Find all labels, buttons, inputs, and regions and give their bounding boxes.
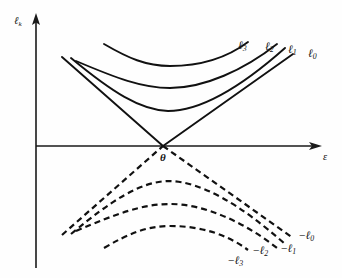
figure-container: ℓk ε θ ℓ3 ℓ2 ℓ1 ℓ0 −ℓ0 −ℓ1 −ℓ2 −ℓ3	[0, 0, 342, 278]
curve-l1	[71, 48, 285, 111]
label-minus-l3: −ℓ3	[228, 255, 243, 268]
label-l3-sub: 3	[243, 44, 247, 53]
label-minus-l0-sub: 0	[310, 234, 314, 243]
label-l0-sub: 0	[313, 52, 317, 61]
label-l3: ℓ3	[238, 40, 247, 53]
label-minus-l1: −ℓ1	[281, 243, 296, 256]
curve-l0-upper	[163, 54, 293, 146]
label-minus-l3-sub: 3	[239, 259, 243, 268]
curve-l3	[104, 42, 248, 66]
y-axis	[32, 13, 40, 268]
label-l2-sub: 2	[270, 45, 274, 54]
y-axis-label-sub: k	[18, 20, 21, 28]
label-minus-l2: −ℓ2	[253, 245, 268, 258]
x-axis	[36, 142, 322, 150]
label-minus-l0: −ℓ0	[299, 230, 314, 243]
label-l1-sub: 1	[293, 48, 297, 57]
curve-minus-l0-lower-left	[62, 146, 163, 235]
curve-minus-l1	[71, 181, 285, 244]
curve-l0-upper-left	[62, 57, 163, 146]
curve-minus-l3	[104, 226, 248, 250]
label-l2: ℓ2	[265, 41, 274, 54]
origin-label: θ	[160, 152, 166, 163]
label-minus-l1-sub: 1	[292, 247, 296, 256]
curve-minus-l0-lower	[163, 146, 293, 238]
label-minus-l2-sub: 2	[264, 249, 268, 258]
y-axis-label: ℓk	[14, 16, 22, 28]
lower-branches	[62, 146, 293, 250]
x-axis-label: ε	[323, 152, 327, 163]
curve-minus-l2	[76, 204, 277, 248]
upper-branches	[62, 42, 293, 146]
label-l0: ℓ0	[308, 48, 317, 61]
label-l1: ℓ1	[288, 44, 297, 57]
band-diagram-svg	[0, 0, 342, 278]
